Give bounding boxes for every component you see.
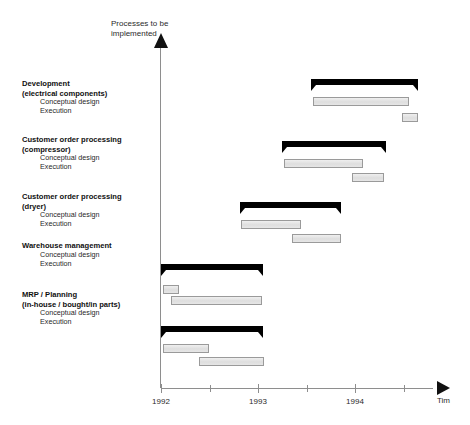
task-label-warehouse-conceptual: Conceptual design: [40, 250, 160, 259]
x-axis-tick-1: [210, 385, 211, 392]
task-bar-mrp-execution: [199, 357, 264, 366]
task-label-development-conceptual: Conceptual design: [40, 97, 160, 106]
task-label-compressor-conceptual: Conceptual design: [40, 153, 160, 162]
task-bar-dryer-conceptual: [241, 220, 301, 229]
x-axis-line: [161, 388, 433, 389]
task-label-mrp-conceptual: Conceptual design: [40, 308, 160, 317]
x-axis-tick-0: [161, 384, 162, 393]
summary-bar-development: [311, 79, 418, 85]
x-axis-tick-5: [404, 385, 405, 392]
group-label-line1: Development: [22, 79, 158, 89]
task-bar-development-execution: [402, 113, 418, 122]
task-bar-compressor-execution: [352, 173, 384, 182]
task-bar-mrp-conceptual: [163, 344, 209, 353]
task-bar-warehouse-execution: [171, 296, 262, 305]
x-axis-title: Tim: [437, 396, 450, 405]
group-label-development: Development (electrical components): [22, 79, 158, 98]
task-label-mrp-execution: Execution: [40, 317, 160, 326]
x-axis-tick-label-1993: 1993: [249, 397, 267, 406]
task-bar-compressor-conceptual: [284, 159, 363, 168]
x-axis-tick-label-1994: 1994: [346, 397, 364, 406]
y-axis-title: Processes to be implemented: [111, 19, 181, 39]
group-label-line1: MRP / Planning: [22, 290, 158, 300]
task-label-warehouse-execution: Execution: [40, 259, 160, 268]
summary-bar-mrp: [161, 326, 263, 332]
group-label-line1: Customer order processing: [22, 192, 158, 202]
summary-bar-warehouse: [161, 264, 263, 270]
task-label-dryer-execution: Execution: [40, 219, 160, 228]
group-label-mrp-planning: MRP / Planning (in-house / bought/in par…: [22, 290, 158, 309]
group-label-order-compressor: Customer order processing (compressor): [22, 135, 158, 154]
y-axis-arrow-icon: [154, 33, 168, 48]
x-axis-tick-3: [307, 385, 308, 392]
summary-bar-compressor: [282, 141, 386, 147]
task-label-dryer-conceptual: Conceptual design: [40, 210, 160, 219]
task-label-development-execution: Execution: [40, 106, 160, 115]
x-axis-arrow-icon: [437, 381, 450, 395]
group-label-line1: Customer order processing: [22, 135, 158, 145]
task-label-compressor-execution: Execution: [40, 162, 160, 171]
x-axis-tick-label-1992: 1992: [152, 397, 170, 406]
gantt-chart: Processes to be implemented Development …: [0, 0, 470, 425]
group-label-order-dryer: Customer order processing (dryer): [22, 192, 158, 211]
x-axis-tick-4: [355, 384, 356, 393]
x-axis-tick-2: [258, 384, 259, 393]
task-bar-dryer-execution: [292, 234, 341, 243]
summary-bar-dryer: [240, 202, 341, 208]
task-bar-warehouse-conceptual: [163, 285, 179, 294]
task-bar-development-conceptual: [313, 97, 409, 106]
